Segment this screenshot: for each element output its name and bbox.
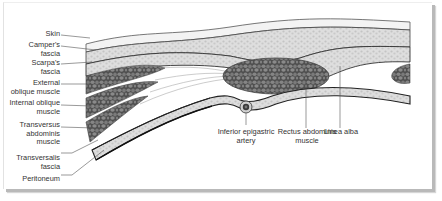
inferior-epigastric-artery-vessel (240, 101, 252, 113)
label-campers-fascia: Camper's fascia (8, 41, 60, 58)
abdominal-wall-illustration (0, 0, 442, 201)
rectus-abdominis-muscle-contralateral (392, 64, 410, 83)
label-peritoneum: Peritoneum (2, 175, 60, 184)
label-scarpas-fascia: Scarpa's fascia (8, 59, 60, 76)
label-transversus-abdominis-muscle: Transversus abdominis muscle (2, 121, 60, 147)
label-internal-oblique-muscle: Internal oblique muscle (2, 99, 60, 116)
label-linea-alba: Linea alba (318, 128, 364, 137)
label-transversalis-fascia: Transversalis fascia (2, 154, 60, 171)
label-external-oblique-muscle: External oblique muscle (2, 79, 60, 96)
label-skin: Skin (8, 30, 60, 39)
